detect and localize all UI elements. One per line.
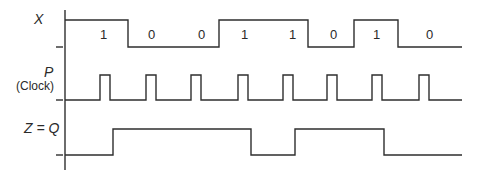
x-bit-6: 1 <box>373 27 380 42</box>
x-bit-0: 1 <box>100 27 107 42</box>
signal-sublabel-clock: (Clock) <box>16 79 54 93</box>
x-bit-2: 0 <box>198 27 205 42</box>
x-bit-5: 0 <box>330 27 337 42</box>
z-waveform <box>65 129 462 155</box>
x-bit-4: 1 <box>289 27 296 42</box>
x-bit-1: 0 <box>148 27 155 42</box>
x-bit-3: 1 <box>241 27 248 42</box>
signal-label-p: P <box>44 64 53 80</box>
x-waveform <box>65 20 462 47</box>
x-bit-7: 0 <box>426 27 433 42</box>
timing-diagram: X P (Clock) Z = Q 1 0 0 1 1 0 1 0 <box>0 0 481 174</box>
signal-label-z: Z = Q <box>24 120 59 136</box>
p-clock-waveform <box>65 75 462 100</box>
signal-label-x: X <box>34 11 43 27</box>
